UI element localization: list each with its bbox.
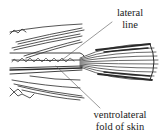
lateral-line-leader <box>62 22 112 60</box>
caudal-peduncle <box>10 53 84 74</box>
lateral-line-label-line1: lateral <box>110 7 150 19</box>
lower-fin-rays <box>10 76 84 100</box>
tail-fan <box>80 44 158 80</box>
ventrolateral-fold-label-line1: ventrolateral <box>80 109 160 121</box>
ventrolateral-fold-label: ventrolateral fold of skin <box>80 109 160 133</box>
ventrolateral-fold-label-line2: fold of skin <box>80 121 160 133</box>
lateral-line-label: lateral line <box>110 7 150 31</box>
lateral-line-label-line2: line <box>110 19 150 31</box>
